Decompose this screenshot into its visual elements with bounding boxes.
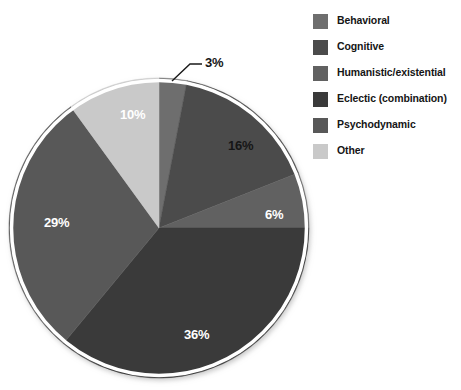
- legend-item-eclectic-combination[interactable]: Eclectic (combination): [313, 86, 461, 112]
- legend-swatch-icon: [313, 14, 328, 29]
- legend-item-psychodynamic[interactable]: Psychodynamic: [313, 112, 461, 138]
- legend-item-label: Other: [337, 145, 365, 157]
- legend-item-cognitive[interactable]: Cognitive: [313, 34, 461, 60]
- pie-chart: 3%16%6%36%29%10%: [0, 0, 330, 390]
- legend-item-other[interactable]: Other: [313, 138, 461, 164]
- legend-item-label: Behavioral: [337, 15, 390, 27]
- legend-item-label: Eclectic (combination): [337, 93, 447, 105]
- legend-swatch-icon: [313, 118, 328, 133]
- legend-swatch-icon: [313, 92, 328, 107]
- legend-swatch-icon: [313, 144, 328, 159]
- chart-canvas: 3%16%6%36%29%10% BehavioralCognitiveHuma…: [0, 0, 461, 390]
- legend-item-humanistic-existential[interactable]: Humanistic/existential: [313, 60, 461, 86]
- leader-line-3pct: [172, 64, 202, 81]
- legend: BehavioralCognitiveHumanistic/existentia…: [313, 8, 461, 164]
- legend-item-label: Psychodynamic: [337, 119, 416, 131]
- pie-chart-svg: [0, 0, 330, 390]
- legend-item-label: Cognitive: [337, 41, 384, 53]
- legend-swatch-icon: [313, 40, 328, 55]
- legend-swatch-icon: [313, 66, 328, 81]
- legend-item-label: Humanistic/existential: [337, 67, 446, 79]
- legend-item-behavioral[interactable]: Behavioral: [313, 8, 461, 34]
